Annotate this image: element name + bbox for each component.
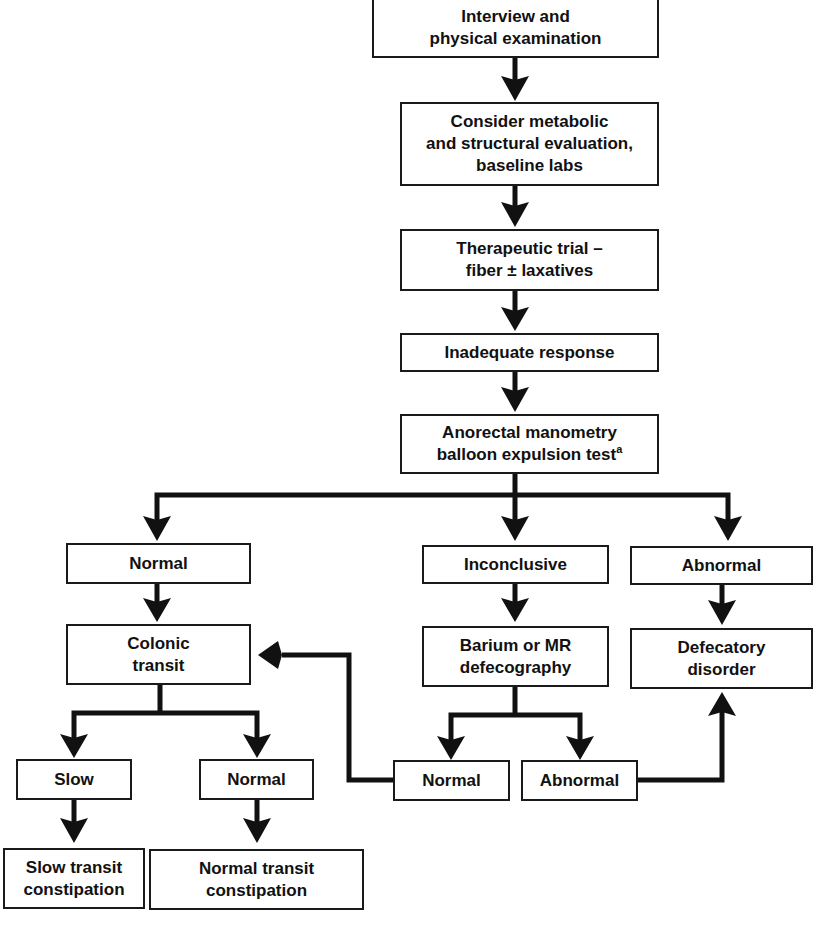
- node-transit-slow: Slow: [16, 759, 132, 800]
- arrow-slow-to-slow-transit-constipation: [60, 798, 88, 843]
- node-defecatory-disorder-label: Defecatory disorder: [678, 637, 766, 681]
- node-colonic-transit: Colonic transit: [66, 624, 251, 685]
- node-slow-transit-constipation-label: Slow transit constipation: [23, 857, 124, 901]
- footnote-marker: a: [616, 443, 622, 455]
- node-interview: Interview and physical examination: [372, 0, 659, 58]
- node-defecography: Barium or MR defecography: [422, 626, 609, 687]
- node-slow-transit-constipation: Slow transit constipation: [3, 848, 145, 909]
- node-interview-label: Interview and physical examination: [430, 6, 602, 50]
- arrow-normal-to-normal-transit-constipation: [243, 798, 271, 843]
- node-defeco-normal-label: Normal: [422, 770, 481, 792]
- node-defeco-abnormal-label: Abnormal: [540, 770, 619, 792]
- branch-colonic-transit: [60, 683, 271, 758]
- arrow-metabolic-to-therapeutic: [501, 186, 529, 227]
- node-result-abnormal: Abnormal: [630, 546, 813, 585]
- node-manometry-label: Anorectal manometry balloon expulsion te…: [437, 423, 617, 464]
- arrow-interview-to-metabolic: [501, 58, 529, 101]
- node-defecatory-disorder: Defecatory disorder: [630, 628, 813, 689]
- node-defecography-abnormal: Abnormal: [521, 760, 638, 801]
- node-transit-normal: Normal: [199, 759, 314, 800]
- node-colonic-transit-label: Colonic transit: [127, 633, 189, 677]
- branch-manometry-results: [143, 473, 742, 541]
- node-therapeutic-trial: Therapeutic trial – fiber ± laxatives: [400, 229, 659, 291]
- node-defecography-normal: Normal: [393, 760, 510, 801]
- node-transit-normal-label: Normal: [227, 769, 286, 791]
- arrow-inconclusive-to-defecography: [501, 583, 529, 622]
- node-result-normal: Normal: [66, 543, 251, 584]
- arrow-abnormal-to-defecatory-disorder: [708, 584, 736, 625]
- node-defecography-label: Barium or MR defecography: [460, 635, 571, 679]
- node-metabolic-evaluation: Consider metabolic and structural evalua…: [400, 102, 659, 186]
- node-normal-transit-constipation-label: Normal transit constipation: [199, 858, 314, 902]
- arrow-normal-to-colonic-transit: [143, 583, 171, 622]
- node-result-abnormal-label: Abnormal: [682, 555, 761, 577]
- node-metabolic-label: Consider metabolic and structural evalua…: [426, 111, 633, 177]
- node-therapeutic-label: Therapeutic trial – fiber ± laxatives: [456, 238, 602, 282]
- arrow-inadequate-to-manometry: [501, 371, 529, 412]
- node-transit-slow-label: Slow: [54, 769, 94, 791]
- branch-defecography: [437, 686, 594, 760]
- node-normal-transit-constipation: Normal transit constipation: [149, 849, 364, 910]
- constipation-evaluation-flowchart: Interview and physical examination Consi…: [0, 0, 827, 926]
- node-result-normal-label: Normal: [129, 553, 188, 575]
- node-anorectal-manometry: Anorectal manometry balloon expulsion te…: [400, 414, 659, 474]
- arrow-defeco-abnormal-to-defecatory-disorder: [637, 692, 736, 780]
- node-inadequate-response: Inadequate response: [400, 333, 659, 372]
- node-inadequate-label: Inadequate response: [444, 342, 614, 364]
- node-result-inconclusive-label: Inconclusive: [464, 554, 567, 576]
- node-result-inconclusive: Inconclusive: [422, 545, 609, 584]
- arrow-therapeutic-to-inadequate: [501, 290, 529, 331]
